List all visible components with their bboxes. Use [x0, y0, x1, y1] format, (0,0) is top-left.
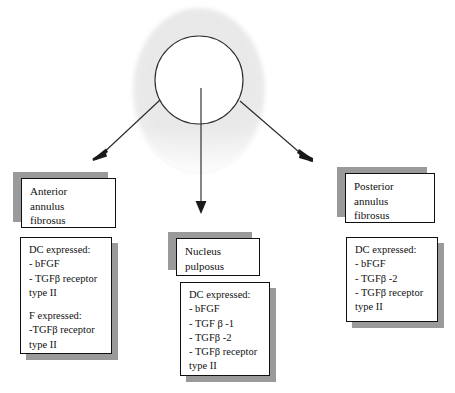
nucleus-title-box: Nucleus pulposus — [176, 238, 260, 276]
expression-line: - bFGF — [189, 302, 262, 316]
arrow-anterior — [93, 100, 161, 161]
expression-line: DC expressed: — [355, 243, 430, 257]
expression-line: - TGFβ -2 — [355, 272, 430, 286]
posterior-title-line: annulus — [354, 194, 427, 209]
expression-line: F expressed: — [29, 309, 104, 323]
expression-line: - TGF β -1 — [189, 317, 262, 331]
nucleus-expression-box: DC expressed: - bFGF - TGF β -1 - TGFβ -… — [180, 282, 270, 376]
expression-line: type II — [189, 359, 262, 373]
posterior-title-line: fibrosus — [354, 208, 427, 223]
arrow-nucleus — [196, 88, 207, 214]
arrow-posterior — [240, 101, 313, 162]
nucleus-title-line: Nucleus — [185, 244, 252, 259]
expression-line: -TGFβ receptor — [29, 323, 104, 337]
expression-line: DC expressed: — [189, 288, 262, 302]
anterior-title-box: Anterior annulus fibrosus — [21, 178, 116, 228]
annulus-fibrosus-shape — [133, 8, 265, 172]
posterior-expression-box: DC expressed: - bFGF - TGFβ -2 - TGFβ re… — [346, 237, 438, 322]
expression-line: - TGFβ -2 — [189, 331, 262, 345]
expression-line: - TGFβ receptor — [189, 345, 262, 359]
expression-line: - bFGF — [355, 257, 430, 271]
anterior-title-line: fibrosus — [30, 213, 108, 228]
nucleus-pulposus-shape — [155, 36, 243, 124]
posterior-title-box: Posterior annulus fibrosus — [345, 173, 435, 223]
expression-line: - bFGF — [29, 257, 104, 271]
anterior-title-line: Anterior — [30, 184, 108, 199]
expression-line: type II — [355, 300, 430, 314]
expression-line: type II — [29, 286, 104, 300]
expression-gap — [29, 300, 104, 309]
expression-line: DC expressed: — [29, 243, 104, 257]
expression-line: type II — [29, 338, 104, 352]
nucleus-title-line: pulposus — [185, 259, 252, 274]
figure-canvas: Anterior annulus fibrosus DC expressed: … — [0, 0, 455, 393]
anterior-title-line: annulus — [30, 199, 108, 214]
expression-line: - TGFβ receptor — [29, 272, 104, 286]
posterior-title-line: Posterior — [354, 179, 427, 194]
anterior-expression-box: DC expressed: - bFGF - TGFβ receptor typ… — [20, 237, 112, 354]
expression-line: - TGFβ receptor — [355, 286, 430, 300]
